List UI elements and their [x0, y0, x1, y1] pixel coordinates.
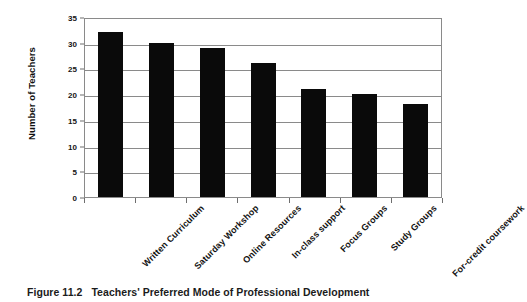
y-tick-label: 25 [68, 65, 77, 74]
bar [149, 43, 174, 197]
bar [352, 94, 377, 197]
bar [403, 104, 428, 197]
y-tick-label: 0 [73, 194, 77, 203]
bar-slot [288, 19, 339, 197]
bar [251, 63, 276, 197]
x-axis-category-labels: Written CurriculumSaturday WorkshopOnlin… [84, 203, 442, 275]
bar-slot [238, 19, 289, 197]
figure-caption-number: Figure 11.2 [27, 286, 82, 298]
y-axis-ticks: 05101520253035 [0, 0, 84, 302]
x-tick-mark [442, 198, 443, 203]
y-tick-label: 20 [68, 91, 77, 100]
plot-area [84, 18, 442, 198]
bar-slot [339, 19, 390, 197]
y-tick-label: 35 [68, 14, 77, 23]
bar [200, 48, 225, 197]
bar [98, 32, 123, 197]
y-tick-label: 15 [68, 116, 77, 125]
bar-slot [85, 19, 136, 197]
bar-series [85, 19, 441, 197]
y-tick-label: 30 [68, 39, 77, 48]
y-tick-label: 10 [68, 142, 77, 151]
bar-slot [187, 19, 238, 197]
bar-slot [390, 19, 441, 197]
figure-caption-text: Teachers' Preferred Mode of Professional… [91, 286, 369, 298]
x-category-label: For-credit coursework [451, 203, 527, 279]
y-tick-label: 5 [73, 168, 77, 177]
figure-caption: Figure 11.2Teachers' Preferred Mode of P… [27, 286, 369, 298]
bar-slot [136, 19, 187, 197]
x-category-label: Study Groups [389, 203, 439, 253]
bar [301, 89, 326, 197]
